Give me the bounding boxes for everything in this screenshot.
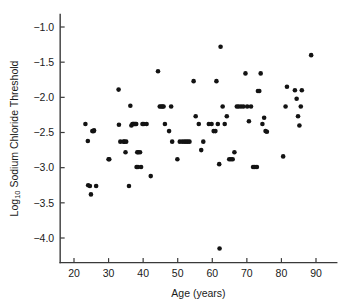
data-point	[175, 157, 180, 162]
data-point	[293, 88, 298, 93]
data-point	[281, 154, 286, 159]
x-axis-title: Age (years)	[171, 287, 225, 299]
x-tick-label: 30	[103, 267, 115, 279]
data-point	[297, 123, 302, 128]
plot-canvas: −1.0−1.5−2.0−2.5−3.0−3.5−4.0 20304050607…	[0, 0, 350, 303]
data-point	[138, 150, 143, 155]
y-tick-label: −3.0	[33, 161, 54, 173]
data-point	[116, 87, 121, 92]
data-point	[169, 104, 174, 109]
data-point	[296, 114, 301, 119]
data-point	[117, 122, 122, 127]
data-point	[86, 139, 91, 144]
data-point	[300, 88, 305, 93]
data-point	[123, 150, 128, 155]
data-point	[255, 165, 260, 170]
data-point	[139, 165, 144, 170]
data-point	[94, 184, 99, 189]
y-tick-label: −1.0	[33, 21, 54, 33]
data-point	[214, 79, 219, 84]
data-point	[148, 174, 153, 179]
data-point	[193, 114, 198, 119]
data-point	[128, 103, 133, 108]
data-point	[201, 139, 206, 144]
data-point	[107, 157, 112, 162]
data-point	[232, 150, 237, 155]
data-point	[218, 44, 223, 49]
x-tick-label: 60	[206, 267, 218, 279]
data-point	[283, 104, 288, 109]
data-point	[265, 130, 270, 135]
data-point	[243, 71, 248, 76]
data-point	[83, 122, 88, 127]
data-point	[209, 122, 214, 127]
x-axis-ticks: 2030405060708090	[68, 258, 322, 279]
data-point	[247, 119, 252, 124]
data-point	[127, 184, 132, 189]
data-point	[285, 84, 290, 89]
data-point	[225, 114, 230, 119]
data-point	[89, 192, 94, 197]
data-point	[170, 139, 175, 144]
x-tick-label: 80	[276, 267, 288, 279]
data-point	[217, 162, 222, 167]
data-point	[262, 115, 267, 120]
y-axis-title-main: Log	[8, 199, 20, 217]
data-point	[134, 122, 139, 127]
data-point	[144, 122, 149, 127]
data-point	[220, 104, 225, 109]
y-axis-title-rest: Sodium Chloride Threshold	[8, 60, 20, 190]
y-tick-label: −2.5	[33, 126, 54, 138]
scatter-plot-figure: −1.0−1.5−2.0−2.5−3.0−3.5−4.0 20304050607…	[0, 0, 350, 303]
x-tick-label: 40	[137, 267, 149, 279]
data-point	[156, 69, 161, 74]
data-point	[217, 246, 222, 251]
data-point	[230, 157, 235, 162]
data-points-group	[83, 44, 313, 250]
y-tick-label: −4.0	[33, 232, 54, 244]
data-point	[257, 89, 262, 94]
data-point	[197, 122, 202, 127]
x-tick-label: 50	[172, 267, 184, 279]
x-tick-label: 90	[310, 267, 322, 279]
data-point	[88, 184, 93, 189]
data-point	[92, 128, 97, 133]
data-point	[161, 104, 166, 109]
data-point	[249, 104, 254, 109]
data-point	[298, 104, 303, 109]
y-axis-title: Log10 Sodium Chloride Threshold	[8, 60, 23, 216]
data-point	[260, 122, 265, 127]
data-point	[124, 139, 129, 144]
y-axis-title-subscript: 10	[14, 191, 23, 199]
data-point	[163, 122, 168, 127]
x-tick-label: 70	[241, 267, 253, 279]
y-tick-label: −1.5	[33, 56, 54, 68]
data-point	[191, 79, 196, 84]
y-tick-label: −2.0	[33, 91, 54, 103]
data-point	[294, 96, 299, 101]
x-tick-label: 20	[68, 267, 80, 279]
data-point	[222, 122, 227, 127]
data-point	[213, 129, 218, 134]
data-point	[199, 148, 204, 153]
data-point	[258, 71, 263, 76]
data-point	[309, 53, 314, 58]
data-point	[187, 139, 192, 144]
data-point	[167, 129, 172, 134]
data-point	[216, 122, 221, 127]
y-tick-label: −3.5	[33, 197, 54, 209]
